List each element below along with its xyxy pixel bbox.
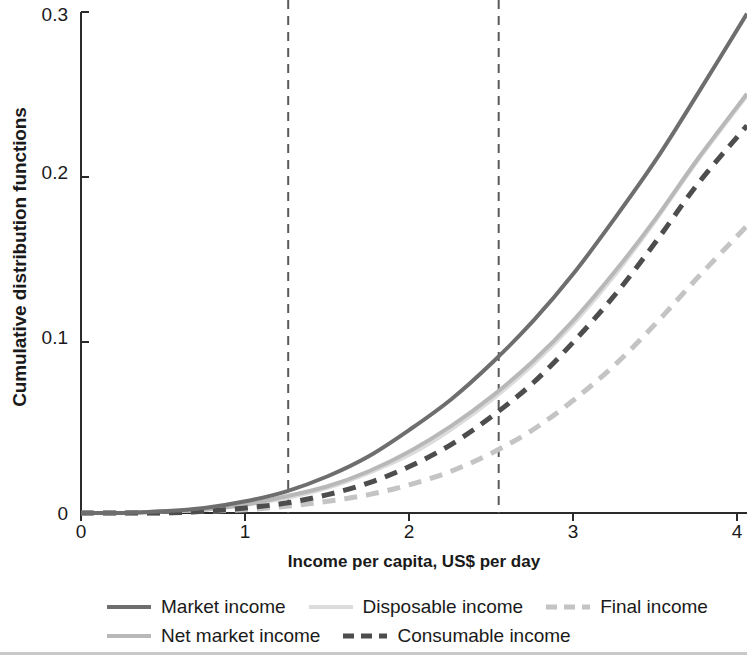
legend-item-net-market-income[interactable]: Net market income (106, 625, 320, 647)
series-line-consumable-income (81, 126, 747, 514)
axis-lines (81, 12, 747, 521)
line-dashed-icon (545, 600, 591, 614)
legend-row-1: Market incomeDisposable incomeFinal inco… (0, 592, 747, 622)
legend-label: Final income (600, 596, 708, 618)
legend-label: Disposable income (363, 596, 524, 618)
line-dashed-icon (342, 629, 388, 643)
legend-label: Market income (161, 596, 286, 618)
legend-item-final-income[interactable]: Final income (545, 596, 708, 618)
legend-item-disposable-income[interactable]: Disposable income (308, 596, 524, 618)
legend-item-market-income[interactable]: Market income (106, 596, 286, 618)
x-axis-title: Income per capita, US$ per day (81, 552, 747, 572)
line-solid-icon (106, 629, 152, 643)
legend-label: Net market income (161, 625, 320, 647)
line-solid-icon (308, 600, 354, 614)
legend-label: Consumable income (397, 625, 570, 647)
cumulative-distribution-chart: Cumulative distribution functions 0.3 0.… (0, 0, 747, 655)
series-curves (81, 14, 747, 513)
series-line-market-income (81, 14, 747, 513)
plot-area (0, 0, 747, 585)
chart-legend: Market incomeDisposable incomeFinal inco… (0, 592, 747, 655)
series-line-net-market-income (81, 94, 747, 513)
legend-item-consumable-income[interactable]: Consumable income (342, 625, 570, 647)
legend-row-2: Net market incomeConsumable income (0, 621, 747, 651)
series-line-final-income (81, 226, 747, 513)
line-solid-icon (106, 600, 152, 614)
